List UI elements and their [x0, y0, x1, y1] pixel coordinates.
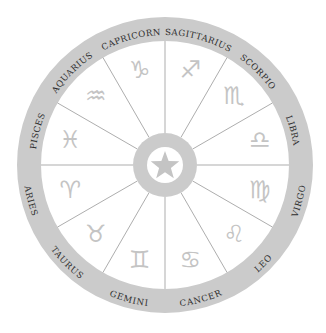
capricorn-glyph-icon: ♑︎ — [129, 56, 151, 84]
libra-glyph-icon: ♎︎ — [249, 126, 271, 154]
aries-glyph-icon: ♈︎ — [60, 176, 82, 204]
aquarius-glyph-icon: ♒︎ — [85, 82, 107, 110]
leo-glyph-icon: ♌︎ — [224, 220, 246, 248]
cancer-glyph-icon: ♋︎ — [180, 246, 202, 274]
scorpio-glyph-icon: ♏︎ — [224, 82, 246, 110]
zodiac-wheel: ♐︎♏︎♎︎♍︎♌︎♋︎♊︎♉︎♈︎♓︎♒︎♑︎ SAGITTARIUSSCOR… — [0, 0, 326, 333]
taurus-glyph-icon: ♉︎ — [85, 220, 107, 248]
pisces-glyph-icon: ♓︎ — [60, 126, 82, 154]
sagittarius-glyph-icon: ♐︎ — [180, 56, 202, 84]
virgo-glyph-icon: ♍︎ — [249, 176, 271, 204]
gemini-glyph-icon: ♊︎ — [129, 246, 151, 274]
